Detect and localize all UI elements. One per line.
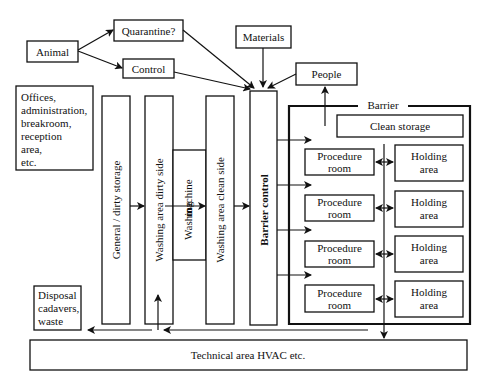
washing-machine-box: Washing machine (173, 150, 206, 260)
offices-box: Offices, administration, breakroom, rece… (16, 86, 93, 170)
people-label: People (312, 68, 342, 80)
general-storage-column: General / dirty storage (102, 96, 130, 324)
arrow-control-barrier (174, 72, 250, 89)
technical-area-label: Technical area HVAC etc. (191, 349, 306, 361)
holding-area-label: area (420, 254, 438, 266)
clean-storage-label: Clean storage (370, 120, 430, 132)
holding-area-label: area (420, 163, 438, 175)
washing-clean-label: Washing area clean side (214, 157, 226, 263)
disposal-line: Disposal (38, 289, 77, 301)
holding-area-label: area (420, 209, 438, 221)
offices-line: breakroom, (21, 117, 72, 129)
offices-line: reception (21, 130, 62, 142)
washing-dirty-column: Washing area dirty side (145, 96, 173, 324)
arrow-animal-quarantine (78, 30, 113, 50)
holding-area-label: Holding (411, 196, 448, 208)
technical-area-box: Technical area HVAC etc. (30, 340, 467, 370)
facility-diagram: Animal Quarantine? Control Materials Peo… (0, 0, 485, 382)
procedure-room-label: Procedure (317, 196, 362, 208)
procedure-room-label: room (328, 162, 352, 174)
procedure-room-label: Procedure (317, 150, 362, 162)
general-storage-label: General / dirty storage (110, 161, 122, 260)
disposal-line: cadavers, (38, 302, 79, 314)
animal-box: Animal (27, 41, 78, 62)
offices-line: Offices, (21, 91, 56, 103)
barrier-control-label: Barrier control (258, 174, 270, 245)
control-box: Control (123, 59, 174, 78)
holding-area-label: Holding (411, 241, 448, 253)
procedure-room-label: Procedure (317, 287, 362, 299)
holding-area-label: Holding (411, 286, 448, 298)
arrow-people-barrier (268, 74, 296, 88)
disposal-line: waste (38, 315, 63, 327)
washing-dirty-label: Washing area dirty side (153, 158, 165, 261)
people-box: People (296, 63, 357, 85)
materials-label: Materials (243, 31, 285, 43)
washing-machine-label-2: machine (182, 179, 194, 216)
clean-storage-box: Clean storage (337, 115, 463, 137)
quarantine-box: Quarantine? (114, 20, 183, 41)
offices-line: area, (21, 143, 42, 155)
holding-area-label: Holding (411, 150, 448, 162)
arrow-animal-control (78, 51, 122, 68)
barrier-control-column: Barrier control (250, 91, 277, 325)
holding-area-label: area (420, 299, 438, 311)
control-label: Control (132, 63, 166, 75)
materials-box: Materials (236, 26, 291, 48)
offices-line: administration, (21, 104, 88, 116)
quarantine-label: Quarantine? (122, 25, 176, 37)
procedure-room-label: Procedure (317, 242, 362, 254)
barrier-label: Barrier (367, 99, 398, 111)
procedure-room-label: room (328, 254, 352, 266)
disposal-box: Disposal cadavers, waste (34, 286, 81, 330)
washing-clean-column: Washing area clean side (206, 96, 234, 324)
offices-line: etc. (21, 156, 37, 168)
procedure-room-label: room (328, 299, 352, 311)
animal-label: Animal (36, 46, 69, 58)
procedure-room-label: room (328, 208, 352, 220)
